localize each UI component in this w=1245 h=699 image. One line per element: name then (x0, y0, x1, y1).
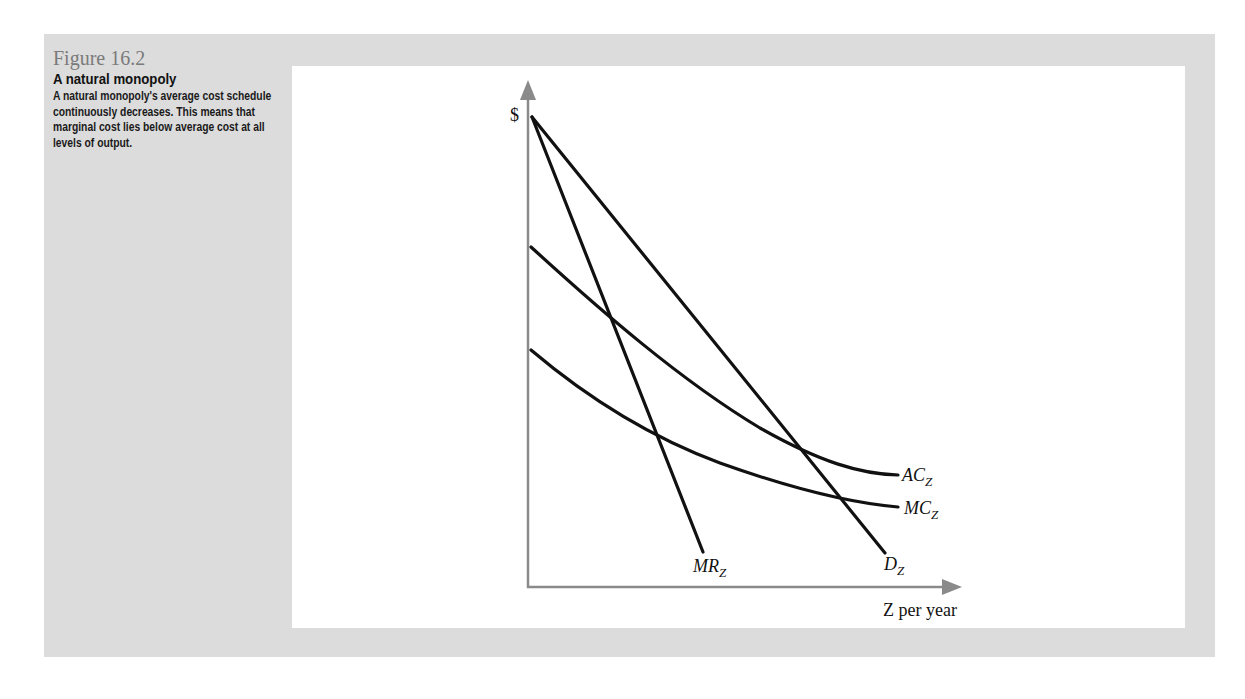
natural-monopoly-chart: $ Z per year ACZ MCZ MRZ DZ (0, 0, 1245, 699)
ac-label: ACZ (901, 465, 933, 489)
y-axis-arrow-icon (520, 80, 536, 100)
x-axis-arrow-icon (942, 579, 962, 595)
y-axis-label: $ (510, 105, 519, 125)
mc-label: MCZ (903, 498, 939, 522)
axes (520, 80, 962, 595)
mr-label: MRZ (692, 556, 727, 580)
d-label: DZ (883, 554, 905, 578)
demand-curve (532, 117, 885, 553)
x-axis-label: Z per year (883, 600, 957, 620)
average-cost-curve (531, 247, 898, 475)
marginal-revenue-curve (532, 117, 703, 552)
marginal-cost-curve (531, 350, 898, 507)
